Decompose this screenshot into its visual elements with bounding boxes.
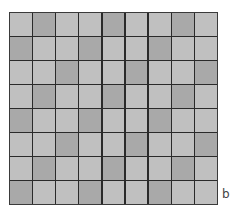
figure-label: b [222,188,230,200]
grid-cell-dark [126,61,148,84]
grid-cell-dark [103,13,125,36]
grid-cell-dark [10,181,32,204]
grid-cell-dark [149,109,171,132]
grid-cell-light [56,157,78,180]
grid-cell-dark [79,109,101,132]
grid-cell-light [126,13,148,36]
grid-cell-light [56,85,78,108]
grid-cell-dark [56,133,78,156]
grid-cell-light [10,133,32,156]
grid-cell-light [126,109,148,132]
grid-cell-light [10,85,32,108]
grid-cell-dark [195,61,217,84]
grid-cell-dark [172,157,194,180]
grid-cell-light [172,181,194,204]
grid-cell-light [195,157,217,180]
grid-cell-dark [103,85,125,108]
grid-cell-light [126,181,148,204]
grid-cell-light [149,13,171,36]
grid-cell-light [172,133,194,156]
grid-cell-light [10,157,32,180]
grid-cell-dark [149,37,171,60]
grid-cell-dark [33,157,55,180]
grid-cell-light [33,133,55,156]
grid-cell-light [79,85,101,108]
grid-cell-light [33,37,55,60]
grid-cell-light [172,109,194,132]
grid-cell-dark [195,133,217,156]
grid-cell-dark [10,109,32,132]
grid-cell-light [79,13,101,36]
grid-cell-light [79,61,101,84]
grid-cell-light [10,61,32,84]
grid-cell-light [56,13,78,36]
grid-cell-dark [103,157,125,180]
grid-cell-dark [172,85,194,108]
grid-cell-light [79,157,101,180]
grid-cell-dark [79,37,101,60]
grid-cell-light [56,37,78,60]
grid-cell-light [149,133,171,156]
grid-cell-light [56,181,78,204]
grid-cell-dark [33,13,55,36]
grid-cell-dark [172,13,194,36]
tile-grid [9,12,218,205]
grid-cell-light [126,37,148,60]
grid-cell-light [149,61,171,84]
grid-cell-light [172,61,194,84]
grid-cell-dark [126,133,148,156]
grid-cell-light [33,181,55,204]
grid-cell-dark [149,181,171,204]
grid-cell-light [172,37,194,60]
grid-cell-light [79,133,101,156]
grid-cell-light [10,13,32,36]
grid-cell-light [103,61,125,84]
grid-cell-light [195,109,217,132]
grid-cell-light [103,37,125,60]
grid-cell-light [149,85,171,108]
grid-cell-light [126,85,148,108]
grid-cell-light [103,109,125,132]
grid-cell-light [126,157,148,180]
grid-cell-dark [33,85,55,108]
grid-cell-light [103,181,125,204]
grid-cell-light [33,61,55,84]
grid-cell-light [33,109,55,132]
grid-cell-light [195,13,217,36]
grid-cell-light [103,133,125,156]
grid-cell-dark [10,37,32,60]
grid-cell-light [195,85,217,108]
grid-cell-dark [79,181,101,204]
grid-cell-light [149,157,171,180]
grid-cell-dark [56,61,78,84]
grid-cell-light [56,109,78,132]
grid-cell-light [195,181,217,204]
grid-cell-light [195,37,217,60]
